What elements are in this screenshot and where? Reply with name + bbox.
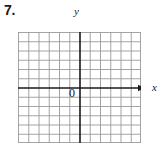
axis-lines (18, 32, 141, 143)
x-axis-label: x (152, 82, 157, 93)
origin-label: 0 (69, 87, 75, 99)
grid-svg (18, 32, 141, 143)
figure-container: 7. (0, 0, 158, 155)
coordinate-grid-plot (18, 32, 141, 143)
y-axis-label: y (74, 6, 79, 17)
problem-number: 7. (4, 3, 15, 17)
